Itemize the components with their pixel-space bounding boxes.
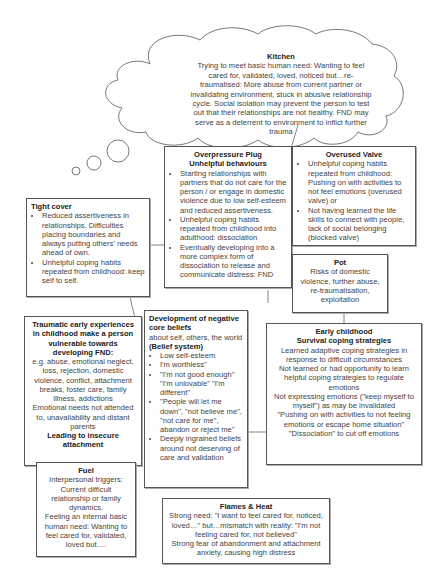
flames-fear: Strong fear of abandonment and attachmen… <box>167 539 325 558</box>
traumatic-examples: e.g. abuse, emotional neglect, loss, rej… <box>29 357 137 403</box>
tight-cover-box: Tight cover Reduced assertiveness in rel… <box>26 198 150 297</box>
cover-title: Tight cover <box>31 202 145 211</box>
beliefs-list: Low self-esteem I'm worthless" "I'm not … <box>149 351 243 462</box>
beliefs-title: Development of negative core beliefs <box>149 314 243 333</box>
early-subtitle: Survival coping strategies <box>271 336 417 345</box>
early-line: Not expressing emotions ("keep myself to… <box>271 392 417 411</box>
list-item: Eventually developing into a more comple… <box>180 243 287 280</box>
overpressure-list: Starting relationships with partners tha… <box>169 169 287 280</box>
fuel-need: Feeling an internal basic human need: Wa… <box>41 512 131 549</box>
list-item: Unhelpful coping habits repeated from ch… <box>180 215 287 243</box>
pot-body: Risks of domestic violence, further abus… <box>297 267 383 304</box>
beliefs-subtitle: about self, others, the world (Belief sy… <box>149 333 243 352</box>
list-item: "I'm not good enough" "I'm unlovable" "I… <box>160 370 243 398</box>
pot-box: Pot Risks of domestic violence, further … <box>292 254 388 313</box>
fuel-box: Fuel Interpersonal triggers: Current dif… <box>36 462 136 557</box>
fuel-triggers: Interpersonal triggers: Current difficul… <box>41 475 131 512</box>
pot-title: Pot <box>297 258 383 267</box>
valve-list: Unhelpful coping habits repeated from ch… <box>297 159 411 242</box>
list-item: Reduced assertiveness in relationships. … <box>42 211 145 257</box>
overused-valve-box: Overused Valve Unhelpful coping habits r… <box>292 146 416 246</box>
traumatic-title: Traumatic early experiences in childhood… <box>29 320 137 357</box>
list-item: Starting relationships with partners tha… <box>180 169 287 215</box>
early-line: Not learned or had opportunity to learn … <box>271 364 417 392</box>
flames-need: Strong need: "I want to feel cared for, … <box>167 511 325 539</box>
list-item: Unhelpful coping habits repeated from ch… <box>308 159 411 205</box>
early-childhood-box: Early childhood Survival coping strategi… <box>266 323 422 465</box>
kitchen-title: Kitchen <box>188 52 374 61</box>
kitchen-text-block: Kitchen Trying to meet basic human need:… <box>188 52 374 137</box>
list-item: I'm worthless" <box>160 360 243 369</box>
beliefs-sub-bold: (Belief system) <box>149 342 203 351</box>
flames-heat-box: Flames & Heat Strong need: "I want to fe… <box>162 498 330 564</box>
traumatic-needs: Emotional needs not attended to, unavail… <box>29 403 137 431</box>
valve-title: Overused Valve <box>297 150 411 159</box>
traumatic-experiences-box: Traumatic early experiences in childhood… <box>24 316 142 466</box>
list-item: "People will let me down", "not believe … <box>160 397 243 434</box>
overpressure-subtitle: Unhelpful behaviours <box>169 159 287 168</box>
early-title: Early childhood <box>271 327 417 336</box>
fuel-title: Fuel <box>41 466 131 475</box>
early-line: "Pushing on with activities to not feeli… <box>271 410 417 429</box>
early-line: "Dissociation" to cut off emotions <box>271 429 417 438</box>
list-item: Unhelpful coping habits repeated from ch… <box>42 258 145 286</box>
core-beliefs-box: Development of negative core beliefs abo… <box>144 310 248 488</box>
overpressure-title: Overpressure Plug <box>169 150 287 159</box>
overpressure-plug-box: Overpressure Plug Unhelpful behaviours S… <box>164 146 292 288</box>
list-item: Not having learned the life skills to co… <box>308 206 411 243</box>
flames-title: Flames & Heat <box>167 502 325 511</box>
early-line: Learned adaptive coping strategies in re… <box>271 346 417 365</box>
kitchen-body: Trying to meet basic human need: Wanting… <box>188 61 374 136</box>
traumatic-footer: Leading to insecure attachment <box>29 431 137 450</box>
list-item: Deeply ingrained beliefs around not dese… <box>160 434 243 462</box>
cover-list: Reduced assertiveness in relationships. … <box>31 211 145 285</box>
list-item: Low self-esteem <box>160 351 243 360</box>
beliefs-sub: about self, others, the world <box>149 333 242 342</box>
